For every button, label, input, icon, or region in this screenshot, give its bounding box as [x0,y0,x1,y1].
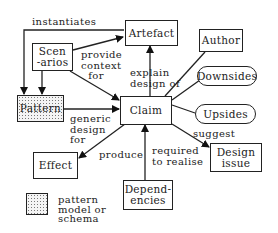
node-pattern-label: Pattern [20,103,61,114]
node-claim: Claim [120,96,172,125]
node-dependencies-label: Depend- encies [125,184,172,206]
edge-label-instantiates: instantiates [32,17,96,28]
legend-swatch-pattern [26,193,48,215]
node-downsides: Downsides [197,66,257,86]
node-author: Author [199,29,243,52]
node-artefact: Artefact [125,20,178,46]
node-downsides-label: Downsides [197,71,257,82]
edge-label-provide-context-for: provide context for [81,50,122,82]
node-dependencies: Depend- encies [123,180,173,210]
node-design-issue: Design issue [210,143,262,172]
node-artefact-label: Artefact [129,28,175,39]
edge-claim-upsides [172,105,195,113]
edge-label-suggest: suggest [193,129,235,140]
edge-label-explain-design-of: explain design of [130,68,180,89]
edge-label-generic-design-for: generic design for [70,114,111,146]
node-effect-label: Effect [39,160,73,171]
node-effect: Effect [33,152,78,179]
legend-label: pattern model or schema [58,195,106,224]
node-design-issue-label: Design issue [217,147,256,169]
node-author-label: Author [202,35,240,46]
node-upsides-label: Upsides [203,109,248,120]
node-scenarios-label: Scen -arios [37,46,69,68]
node-pattern: Pattern [17,95,64,122]
node-scenarios: Scen -arios [32,43,73,71]
node-claim-label: Claim [130,105,162,116]
claims-pattern-diagram: Artefact Author Scen -arios Downsides Pa… [0,0,278,233]
node-upsides: Upsides [195,104,256,124]
edge-label-produce: produce [99,150,143,161]
edge-label-required-to-realise: required to realise [152,146,203,167]
